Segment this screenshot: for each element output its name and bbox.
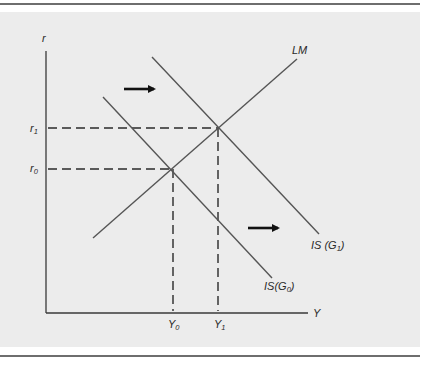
lm-curve bbox=[93, 59, 297, 238]
is-g0-label: IS(G0) bbox=[264, 280, 295, 294]
r1-label: r1 bbox=[30, 122, 38, 136]
lm-label: LM bbox=[292, 44, 308, 56]
r0-label: r0 bbox=[30, 162, 39, 176]
r0-label-sub: 0 bbox=[34, 167, 39, 176]
y1-label-sub: 1 bbox=[221, 323, 225, 332]
is-g0-curve bbox=[103, 97, 272, 278]
y-axis-label: r bbox=[42, 32, 47, 44]
r1-label-sub: 1 bbox=[34, 127, 38, 136]
is-g1-curve bbox=[152, 57, 319, 234]
y0-label-sub: 0 bbox=[175, 323, 180, 332]
x-axis-label: Y bbox=[313, 307, 321, 319]
is-g0-label-main: IS(G bbox=[264, 280, 287, 292]
is-lm-diagram: r Y LM IS(G0) IS (G1) r1 r0 Y0 Y1 bbox=[0, 0, 441, 366]
y1-label: Y1 bbox=[214, 318, 226, 332]
is-g1-label: IS (G1) bbox=[311, 239, 345, 253]
is-g1-label-main: IS (G bbox=[311, 239, 337, 251]
y0-label: Y0 bbox=[168, 318, 180, 332]
